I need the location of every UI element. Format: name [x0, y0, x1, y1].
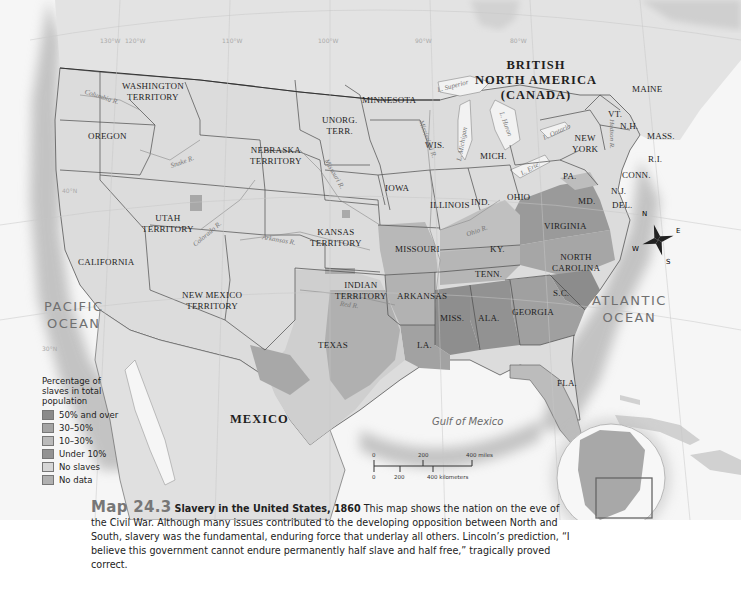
- label-minnesota: MINNESOTA: [362, 95, 416, 106]
- scale-miles-200: 200: [418, 452, 429, 458]
- label-indiana: IND.: [471, 197, 490, 208]
- label-kentucky: KY.: [490, 244, 505, 255]
- label-hudson-river: Hudson R.: [608, 119, 616, 149]
- scale-km-0: 0: [372, 474, 376, 480]
- label-gulf-of-mexico: Gulf of Mexico: [432, 416, 503, 427]
- legend-swatch: [42, 462, 54, 472]
- compass-rose: N E W S: [636, 218, 680, 262]
- label-south-carolina: S.C.: [553, 288, 569, 299]
- label-arkansas: ARKANSAS: [397, 291, 447, 302]
- label-michigan: MICH.: [480, 151, 507, 162]
- scale-miles-0: 0: [372, 452, 376, 458]
- lat-label-30n: 30°N: [42, 345, 57, 352]
- legend-title: Percentage of slaves in total population: [42, 376, 122, 406]
- legend-item: 50% and over: [42, 408, 122, 421]
- scale-bar: 0 200 400 miles 0 200 400 kilometers: [372, 452, 512, 482]
- label-new-york: NEWYORK: [572, 133, 598, 155]
- lon-label-110w: 110°W: [222, 37, 242, 44]
- label-mexico: MEXICO: [230, 412, 289, 427]
- label-connecticut: CONN.: [622, 170, 651, 181]
- label-oregon: OREGON: [88, 131, 127, 142]
- lon-label-80w: 80°W: [510, 37, 527, 44]
- compass-star-icon: [636, 218, 680, 262]
- label-delaware: DEL.: [612, 200, 633, 211]
- label-georgia: GEORGIA: [512, 307, 554, 318]
- label-pacific-ocean: PACIFIC OCEAN: [44, 298, 103, 332]
- compass-n: N: [642, 210, 647, 218]
- label-north-carolina: NORTHCAROLINA: [552, 252, 600, 274]
- label-ohio: OHIO: [507, 192, 530, 203]
- legend-item: No data: [42, 473, 122, 486]
- legend-swatch: [42, 449, 54, 459]
- label-texas: TEXAS: [318, 340, 348, 351]
- caption-map-number: Map 24.3: [91, 498, 171, 516]
- legend-item: 30–50%: [42, 421, 122, 434]
- label-alabama: ALA.: [478, 313, 500, 324]
- lon-label-90w: 90°W: [415, 37, 432, 44]
- label-atlantic-ocean: ATLANTIC OCEAN: [592, 292, 667, 326]
- compass-e: E: [676, 227, 680, 235]
- label-new-jersey: N.J.: [611, 186, 626, 197]
- scale-km-200: 200: [394, 474, 405, 480]
- scale-miles-400: 400 miles: [466, 452, 493, 458]
- label-massachusetts: MASS.: [647, 131, 675, 142]
- label-illinois: ILLINOIS: [430, 200, 470, 211]
- label-washington: WASHINGTONTERRITORY: [122, 81, 184, 103]
- legend-swatch: [42, 423, 54, 433]
- label-louisiana: LA.: [417, 340, 432, 351]
- label-florida: FLA.: [557, 378, 577, 389]
- lat-label-40n: 40°N: [62, 187, 77, 194]
- label-indian-territory: INDIANTERRITORY: [335, 280, 387, 302]
- label-missouri: MISSOURI: [395, 244, 440, 255]
- legend-swatch: [42, 436, 54, 446]
- label-maryland: MD.: [578, 196, 595, 207]
- compass-s: S: [666, 258, 670, 266]
- label-kansas: KANSASTERRITORY: [310, 227, 362, 249]
- label-new-hampshire: N.H.: [620, 121, 638, 132]
- legend-item: No slaves: [42, 460, 122, 473]
- label-rhode-island: R.I.: [648, 154, 662, 165]
- compass-w: W: [632, 245, 639, 253]
- label-nebraska: NEBRASKATERRITORY: [250, 145, 302, 167]
- label-pennsylvania: PA.: [563, 171, 577, 182]
- lon-label-120w: 120°W: [125, 37, 145, 44]
- map-caption: Map 24.3 Slavery in the United States, 1…: [91, 500, 571, 572]
- lon-label-100w: 100°W: [318, 37, 338, 44]
- label-mississippi: MISS.: [440, 313, 464, 324]
- label-virginia: VIRGINIA: [544, 221, 587, 232]
- map-legend: Percentage of slaves in total population…: [42, 376, 122, 486]
- legend-item: Under 10%: [42, 447, 122, 460]
- legend-swatch: [42, 475, 54, 485]
- label-california: CALIFORNIA: [78, 257, 135, 268]
- caption-map-title: Slavery in the United States, 1860: [174, 503, 360, 514]
- legend-item: 10–30%: [42, 434, 122, 447]
- label-maine: MAINE: [632, 84, 663, 95]
- label-utah: UTAHTERRITORY: [142, 213, 194, 235]
- scale-km-400: 400 kilometers: [427, 474, 468, 480]
- lon-label-130w: 130°W: [100, 37, 120, 44]
- label-canada: BRITISH NORTH AMERICA (CANADA): [475, 58, 597, 103]
- label-iowa: IOWA: [385, 183, 409, 194]
- legend-swatch: [42, 410, 54, 420]
- label-tennessee: TENN.: [475, 269, 502, 280]
- label-unorg-terr: UNORG.TERR.: [322, 115, 357, 137]
- label-new-mexico: NEW MEXICOTERRITORY: [182, 290, 242, 312]
